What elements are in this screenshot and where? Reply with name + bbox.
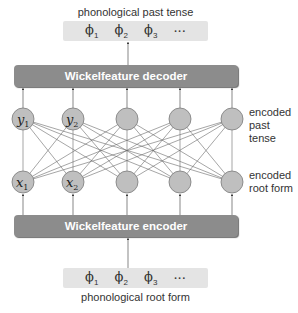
output-phoneme-1: ϕ1 <box>85 22 98 40</box>
input-caption: phonological root form <box>63 291 208 303</box>
node-y5 <box>221 108 243 130</box>
encoder-label: Wickelfeature encoder <box>65 220 188 232</box>
node-x3 <box>116 171 138 193</box>
arrows-to-decoder <box>23 89 232 108</box>
output-caption: phonological past tense <box>63 6 208 18</box>
input-phoneme-2: ϕ2 <box>115 269 128 287</box>
root-form-nodes <box>12 171 243 193</box>
network-graph: y1 y2 x1 x2 <box>0 0 298 313</box>
output-phoneme-box: ϕ1 ϕ2 ϕ3 ··· <box>63 21 208 41</box>
output-phoneme-3: ϕ3 <box>144 22 157 40</box>
node-y3 <box>116 108 138 130</box>
decoder-label: Wickelfeature decoder <box>65 70 188 82</box>
past-tense-nodes <box>12 108 243 130</box>
arrows-from-encoder <box>23 195 232 215</box>
wickelfeature-decoder: Wickelfeature decoder <box>14 65 238 87</box>
input-phoneme-1: ϕ1 <box>85 269 98 287</box>
node-y4 <box>169 108 191 130</box>
input-phoneme-3: ϕ3 <box>144 269 157 287</box>
wickelfeature-encoder: Wickelfeature encoder <box>14 215 238 237</box>
output-phoneme-2: ϕ2 <box>115 22 128 40</box>
input-phoneme-ellipsis: ··· <box>173 271 185 286</box>
input-phoneme-box: ϕ1 ϕ2 ϕ3 ··· <box>63 268 208 288</box>
node-x4 <box>169 171 191 193</box>
root-form-layer-label: encoded root form <box>249 169 293 195</box>
past-tense-layer-label: encoded past tense <box>249 106 298 145</box>
node-x5 <box>221 171 243 193</box>
output-phoneme-ellipsis: ··· <box>173 24 185 39</box>
